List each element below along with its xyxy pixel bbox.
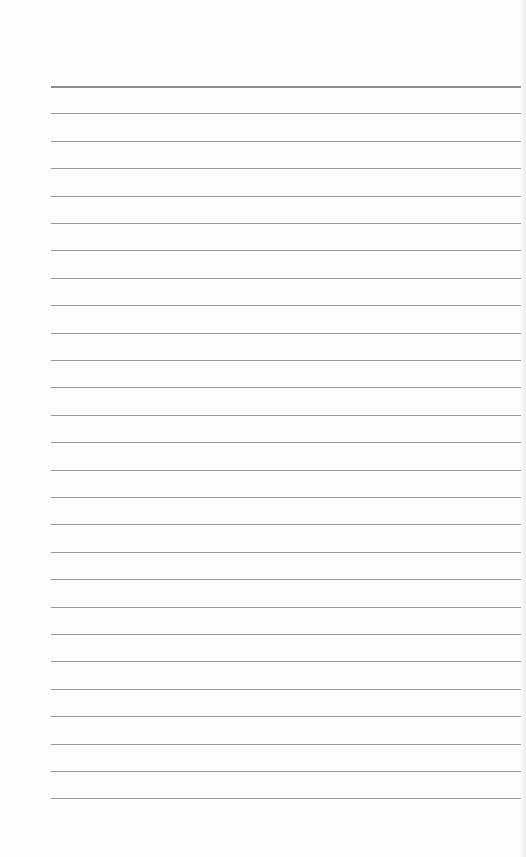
rule-line xyxy=(51,634,521,635)
rule-line xyxy=(51,415,521,416)
rule-line xyxy=(51,524,521,525)
rule-line xyxy=(51,168,521,169)
rule-line xyxy=(51,552,521,553)
top-rule-line xyxy=(51,86,521,88)
rule-line xyxy=(51,798,521,799)
rule-line xyxy=(51,360,521,361)
lined-paper xyxy=(0,0,526,857)
page-edge-shadow xyxy=(520,0,526,857)
rule-line xyxy=(51,223,521,224)
rule-line xyxy=(51,196,521,197)
rule-line xyxy=(51,716,521,717)
rule-line xyxy=(51,250,521,251)
rule-line xyxy=(51,141,521,142)
rule-line xyxy=(51,387,521,388)
rule-line xyxy=(51,442,521,443)
rule-line xyxy=(51,113,521,114)
rule-line xyxy=(51,689,521,690)
rule-line xyxy=(51,661,521,662)
rule-line xyxy=(51,579,521,580)
rule-line xyxy=(51,607,521,608)
rule-line xyxy=(51,470,521,471)
rule-line xyxy=(51,497,521,498)
rule-line xyxy=(51,771,521,772)
rule-line xyxy=(51,744,521,745)
rule-line xyxy=(51,333,521,334)
rule-line xyxy=(51,278,521,279)
rule-line xyxy=(51,305,521,306)
